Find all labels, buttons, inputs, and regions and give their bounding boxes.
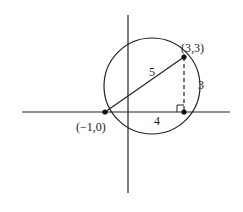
hypotenuse-length-label: 5 — [149, 65, 155, 79]
point-c — [181, 109, 186, 114]
point-b — [181, 54, 186, 59]
point-a-label: (−1,0) — [76, 120, 106, 134]
vertical-length-label: 3 — [198, 78, 204, 92]
hypotenuse-segment — [105, 57, 184, 112]
coordinate-diagram: (−1,0) (3,3) 5 3 4 — [0, 0, 243, 212]
point-b-label: (3,3) — [181, 41, 204, 55]
horizontal-length-label: 4 — [154, 114, 160, 128]
point-a — [102, 109, 107, 114]
